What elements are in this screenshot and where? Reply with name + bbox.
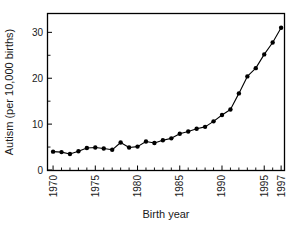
data-point-1995 <box>262 52 266 56</box>
data-point-1989 <box>211 119 215 123</box>
data-point-1977 <box>110 148 114 152</box>
y-axis-title: Autism (per 10,000 births) <box>3 29 15 156</box>
data-point-1982 <box>152 141 156 145</box>
y-tick-label-20: 20 <box>32 73 44 84</box>
data-point-1997 <box>279 26 283 30</box>
data-point-1987 <box>194 127 198 131</box>
x-tick-label-1997: 1997 <box>276 175 287 198</box>
chart-canvas: 0102030 1970197519801985199019951997 Aut… <box>0 0 298 227</box>
x-tick-label-1995: 1995 <box>259 175 270 198</box>
data-point-1978 <box>118 140 122 144</box>
data-point-1992 <box>237 91 241 95</box>
data-point-1972 <box>68 152 72 156</box>
x-tick-label-1985: 1985 <box>174 175 185 198</box>
data-point-1976 <box>102 146 106 150</box>
data-point-1970 <box>51 149 55 153</box>
data-point-1985 <box>178 132 182 136</box>
x-tick-label-1990: 1990 <box>216 175 227 198</box>
data-point-1979 <box>127 145 131 149</box>
data-point-1980 <box>135 144 139 148</box>
data-point-1991 <box>228 107 232 111</box>
autism-prevalence-chart: 0102030 1970197519801985199019951997 Aut… <box>0 0 298 227</box>
data-point-1981 <box>144 139 148 143</box>
x-tick-label-1970: 1970 <box>48 175 59 198</box>
data-point-1990 <box>220 113 224 117</box>
y-tick-label-30: 30 <box>32 27 44 38</box>
data-point-1974 <box>85 146 89 150</box>
chart-background <box>0 0 298 227</box>
data-point-1971 <box>59 150 63 154</box>
data-point-1973 <box>76 149 80 153</box>
data-point-1975 <box>93 145 97 149</box>
x-tick-label-1975: 1975 <box>90 175 101 198</box>
data-point-1984 <box>169 136 173 140</box>
data-point-1986 <box>186 129 190 133</box>
x-tick-label-1980: 1980 <box>132 175 143 198</box>
data-point-1994 <box>254 66 258 70</box>
y-tick-label-0: 0 <box>37 165 43 176</box>
data-point-1988 <box>203 125 207 129</box>
y-tick-label-10: 10 <box>32 119 44 130</box>
data-point-1996 <box>270 40 274 44</box>
data-point-1983 <box>161 138 165 142</box>
x-axis-title: Birth year <box>142 208 189 220</box>
data-point-1993 <box>245 74 249 78</box>
